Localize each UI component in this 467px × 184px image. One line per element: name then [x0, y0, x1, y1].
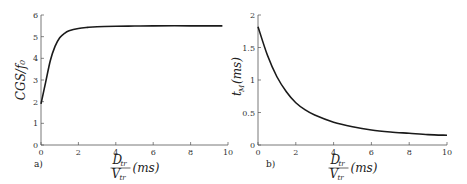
x-tick-label: 2	[293, 148, 298, 157]
svg-text:tr: tr	[339, 160, 346, 168]
svg-text:tr: tr	[120, 174, 127, 182]
svg-text:M: M	[238, 84, 246, 93]
x-tick-label: 0	[38, 148, 43, 157]
data-curve	[258, 27, 447, 136]
y-tick-label: 5	[33, 33, 38, 42]
y-axis-label: tM(ms)	[230, 57, 246, 96]
y-tick-label: 6	[33, 11, 38, 20]
panel-label: a)	[34, 159, 43, 169]
y-tick-label: 0.5	[242, 109, 255, 118]
svg-text:tr: tr	[338, 174, 345, 182]
svg-text:(ms): (ms)	[230, 57, 244, 84]
x-tick-label: 8	[188, 148, 193, 157]
x-tick-label: 6	[151, 148, 156, 157]
x-axis-label: DtrVtr(ms)	[111, 153, 160, 182]
y-tick-label: 1	[250, 76, 255, 85]
y-tick-label: 0	[250, 141, 255, 150]
y-tick-label: 0	[33, 141, 38, 150]
y-tick-label: 2	[250, 11, 255, 20]
x-tick-label: 10	[223, 148, 233, 157]
y-tick-label: 1	[33, 119, 38, 128]
chart-b: 024681000.511.52b)DtrVtr(ms)tM(ms)	[230, 11, 452, 182]
figure: 02468100123456a)DtrVtr(ms)CGS/f₀ 0246810…	[0, 0, 467, 184]
x-tick-label: 2	[76, 148, 81, 157]
chart-a: 02468100123456a)DtrVtr(ms)CGS/f₀	[14, 11, 233, 182]
y-axis-label: CGS/f₀	[14, 60, 28, 100]
data-curve	[41, 26, 222, 104]
x-tick-label: 6	[369, 148, 374, 157]
x-tick-label: 10	[442, 148, 452, 157]
svg-text:(ms): (ms)	[351, 161, 378, 175]
svg-text:CGS/f₀: CGS/f₀	[14, 60, 28, 100]
y-tick-label: 2	[33, 98, 38, 107]
y-tick-label: 4	[33, 54, 38, 63]
y-tick-label: 1.5	[242, 44, 255, 53]
panel-label: b)	[266, 159, 275, 169]
x-axis-label: DtrVtr(ms)	[329, 153, 378, 182]
y-tick-label: 3	[33, 76, 38, 85]
x-tick-label: 0	[255, 148, 260, 157]
svg-text:(ms): (ms)	[133, 161, 160, 175]
svg-text:tr: tr	[121, 160, 128, 168]
x-tick-label: 8	[407, 148, 412, 157]
